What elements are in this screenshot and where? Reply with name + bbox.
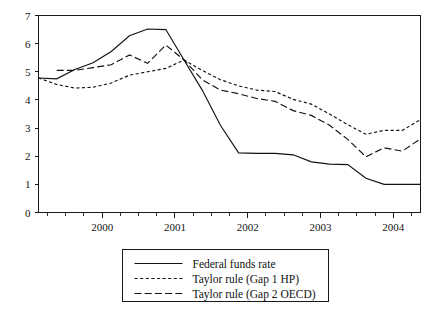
plot-frame xyxy=(39,16,421,213)
y-axis-label: 6 xyxy=(25,38,31,50)
x-axis-label: 2004 xyxy=(382,221,405,233)
chart-series-lines xyxy=(39,29,421,184)
legend-label: Federal funds rate xyxy=(193,258,276,270)
chart-tick-marks xyxy=(35,16,412,218)
y-axis-label: 3 xyxy=(25,122,31,134)
y-axis-tick-labels: 01234567 xyxy=(25,10,31,219)
x-axis-label: 2002 xyxy=(237,221,259,233)
legend-label: Taylor rule (Gap 1 HP) xyxy=(193,273,300,286)
y-axis-label: 2 xyxy=(25,150,31,162)
y-axis-label: 0 xyxy=(25,207,31,219)
x-axis-label: 2000 xyxy=(91,221,114,233)
chart-legend: Federal funds rateTaylor rule (Gap 1 HP)… xyxy=(123,250,329,302)
x-axis-tick-labels: 20002001200220032004 xyxy=(91,221,405,233)
y-axis-label: 7 xyxy=(25,10,31,22)
y-axis-label: 4 xyxy=(25,94,31,106)
x-axis-label: 2001 xyxy=(164,221,186,233)
chart-figure: 01234567 20002001200220032004 Federal fu… xyxy=(0,0,436,320)
legend-label: Taylor rule (Gap 2 OECD) xyxy=(193,288,316,301)
chart-axes xyxy=(39,16,421,213)
x-axis-label: 2003 xyxy=(309,221,332,233)
y-axis-label: 1 xyxy=(25,178,31,190)
series-line-dotted xyxy=(39,60,421,134)
line-chart: 01234567 20002001200220032004 Federal fu… xyxy=(0,0,436,320)
y-axis-label: 5 xyxy=(25,66,31,78)
series-line-dashed xyxy=(57,45,421,157)
series-line-solid xyxy=(39,29,421,184)
